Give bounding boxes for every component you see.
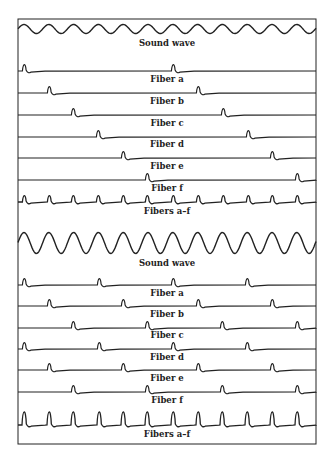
sound-wave-trace [18,25,316,34]
fiber-trace [18,65,316,73]
combined-fibers-label: Fibers a–f [144,206,192,216]
fiber-trace [18,279,316,287]
combined-fibers-trace [18,196,316,204]
fiber-label: Fiber e [150,161,184,171]
fiber-label: Fiber b [150,96,184,106]
fiber-trace [18,87,316,95]
volley-principle-figure: Sound waveFiber aFiber bFiber cFiber dFi… [0,0,336,462]
sound-wave-trace [18,233,316,254]
panels: Sound waveFiber aFiber bFiber cFiber dFi… [18,25,316,440]
fiber-label: Fiber e [150,373,184,383]
combined-fibers-label: Fibers a–f [144,429,192,439]
sound-wave-label: Sound wave [139,38,196,48]
panel-high-frequency: Sound waveFiber aFiber bFiber cFiber dFi… [18,233,316,440]
fiber-trace [18,386,316,394]
fiber-trace [18,343,316,351]
sound-wave-label: Sound wave [139,258,196,268]
fiber-trace [18,322,316,330]
fiber-trace [18,364,316,372]
fiber-trace [18,131,316,139]
fiber-label: Fiber d [150,352,184,362]
fiber-label: Fiber b [150,309,184,319]
fiber-trace [18,109,316,117]
fiber-label: Fiber a [150,288,184,298]
combined-fibers-trace [18,412,316,427]
fiber-trace [18,152,316,160]
fiber-label: Fiber f [151,183,184,193]
panel-low-frequency: Sound waveFiber aFiber bFiber cFiber dFi… [18,25,316,217]
fiber-label: Fiber d [150,139,184,149]
fiber-label: Fiber c [150,330,183,340]
fiber-label: Fiber c [150,118,183,128]
fiber-trace [18,174,316,182]
fiber-label: Fiber f [151,395,184,405]
fiber-label: Fiber a [150,74,184,84]
fiber-trace [18,300,316,308]
